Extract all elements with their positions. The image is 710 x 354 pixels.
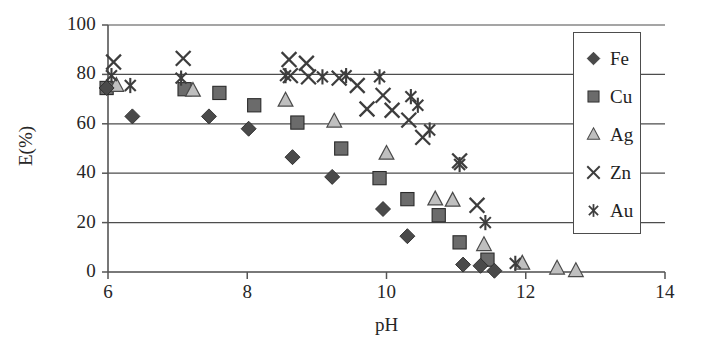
y-tick-label-100: 100 xyxy=(30,13,96,35)
point-fe-6 xyxy=(376,202,391,217)
y-tick-label-0: 0 xyxy=(30,260,96,282)
point-zn-1 xyxy=(176,51,191,66)
point-ag-6 xyxy=(445,192,460,206)
point-fe-7 xyxy=(400,229,415,244)
y-tick-label-60: 60 xyxy=(30,112,96,134)
legend-marker-cross-x-icon xyxy=(584,163,603,182)
x-tick-label-8: 8 xyxy=(217,281,277,303)
point-zn-5 xyxy=(301,69,316,84)
point-fe-5 xyxy=(325,169,340,184)
chart-figure: 02040608010068101214pHE(%)FeCuAgZnAu xyxy=(0,0,710,354)
x-tick-label-14: 14 xyxy=(635,281,695,303)
y-tick-label-80: 80 xyxy=(30,62,96,84)
legend-label: Fe xyxy=(610,49,629,68)
point-au-4 xyxy=(317,69,328,84)
y-axis-title: E(%) xyxy=(15,96,37,196)
point-zn-9 xyxy=(360,102,375,117)
x-tick-label-12: 12 xyxy=(496,281,556,303)
point-ag-2 xyxy=(278,92,293,106)
point-zn-8 xyxy=(376,88,391,103)
y-tick-label-20: 20 xyxy=(30,211,96,233)
point-fe-8 xyxy=(456,257,471,272)
point-cu-6 xyxy=(373,172,386,185)
point-cu-7 xyxy=(401,193,414,206)
legend-label: Zn xyxy=(610,163,631,182)
point-ag-7 xyxy=(477,237,492,251)
legend-marker-filled-square-icon xyxy=(584,87,603,106)
legend-marker-open-triangle-icon xyxy=(584,125,603,144)
legend-label: Au xyxy=(610,201,633,220)
legend-label: Ag xyxy=(610,125,633,144)
x-tick-label-6: 6 xyxy=(78,281,138,303)
point-ag-3 xyxy=(327,113,342,127)
point-fe-2 xyxy=(201,109,216,124)
legend-item-fe[interactable]: Fe xyxy=(584,42,629,74)
y-tick-label-40: 40 xyxy=(30,161,96,183)
x-tick-label-10: 10 xyxy=(357,281,417,303)
point-au-6 xyxy=(374,69,385,84)
series-fe xyxy=(99,80,502,278)
point-zn-10 xyxy=(385,103,400,118)
point-cu-3 xyxy=(248,99,261,112)
point-cu-5 xyxy=(335,142,348,155)
point-zn-2 xyxy=(282,52,297,67)
point-zn-14 xyxy=(470,198,485,213)
point-zn-11 xyxy=(401,113,416,128)
legend-item-cu[interactable]: Cu xyxy=(584,80,632,112)
legend-item-ag[interactable]: Ag xyxy=(584,118,633,150)
point-cu-9 xyxy=(453,236,466,249)
point-ag-9 xyxy=(550,260,565,274)
point-ag-4 xyxy=(379,145,394,159)
point-cu-2 xyxy=(213,86,226,99)
point-fe-4 xyxy=(285,150,300,165)
point-cu-8 xyxy=(432,209,445,222)
series-cu xyxy=(100,81,494,266)
point-ag-5 xyxy=(428,191,443,205)
point-ag-10 xyxy=(569,263,584,277)
legend-marker-filled-diamond-icon xyxy=(584,49,603,68)
point-cu-4 xyxy=(291,116,304,129)
legend-item-zn[interactable]: Zn xyxy=(584,156,631,188)
legend-marker-asterisk-icon xyxy=(584,201,603,220)
point-au-1 xyxy=(125,78,136,93)
point-zn-3 xyxy=(299,56,314,71)
legend: FeCuAgZnAu xyxy=(573,32,641,234)
point-fe-1 xyxy=(125,109,140,124)
legend-item-au[interactable]: Au xyxy=(584,194,633,226)
x-axis-title: pH xyxy=(347,314,427,336)
legend-label: Cu xyxy=(610,87,632,106)
series-ag xyxy=(109,78,583,277)
